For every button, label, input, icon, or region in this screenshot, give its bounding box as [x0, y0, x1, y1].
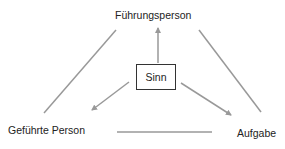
arrow-to-right: [181, 83, 231, 115]
node-left-label: Geführte Person: [8, 124, 85, 136]
center-box: Sinn: [136, 64, 176, 90]
arrow-to-left: [92, 82, 129, 110]
node-right-label: Aufgabe: [237, 127, 276, 139]
center-label: Sinn: [145, 71, 166, 83]
diagram: Führungsperson Geführte Person Aufgabe S…: [0, 0, 285, 149]
node-top-label: Führungsperson: [115, 9, 191, 21]
